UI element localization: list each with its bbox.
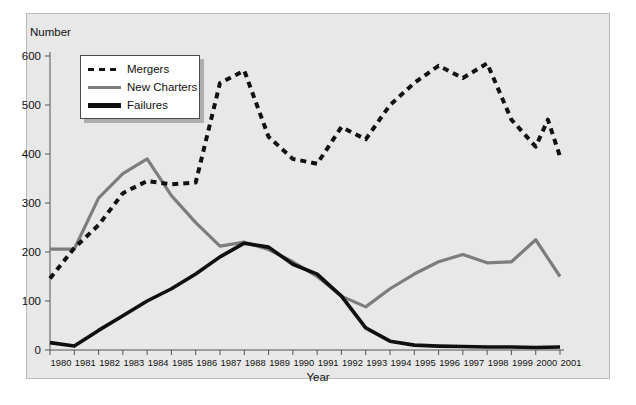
- legend-entry-failures: Failures: [88, 96, 168, 114]
- x-tick-label: 1983: [123, 357, 144, 368]
- x-tick-label: 1989: [269, 357, 290, 368]
- x-tick-label: 1986: [196, 357, 217, 368]
- chart-figure: Number Year 0100200300400500600 19801981…: [0, 0, 636, 405]
- legend-label-mergers: Mergers: [127, 63, 169, 75]
- x-tick-label: 1991: [318, 357, 339, 368]
- y-tick-label: 600: [22, 50, 41, 62]
- x-tick-label: 1984: [148, 357, 169, 368]
- x-tick-label: 1995: [415, 357, 436, 368]
- x-tick-label: 1985: [172, 357, 193, 368]
- x-tick-label: 1992: [342, 357, 363, 368]
- x-axis: 1980198119821983198419851986198719881989…: [50, 350, 581, 368]
- x-tick-label: 2001: [561, 357, 582, 368]
- x-tick-label: 1981: [75, 357, 96, 368]
- legend-swatch-dashed-line-icon: [88, 64, 121, 75]
- series-line-failures: [50, 243, 560, 347]
- legend-swatch-black-line-icon: [88, 100, 121, 111]
- x-tick-label: 1996: [439, 357, 460, 368]
- y-tick-label: 500: [22, 99, 41, 111]
- x-tick-label: 1990: [293, 357, 314, 368]
- y-tick-label: 100: [22, 295, 41, 307]
- x-tick-label: 2000: [536, 357, 557, 368]
- x-tick-label: 1994: [391, 357, 412, 368]
- y-tick-label: 0: [35, 344, 41, 356]
- legend-swatch-gray-line-icon: [88, 82, 121, 93]
- x-tick-label: 1999: [512, 357, 533, 368]
- legend-entry-new-charters: New Charters: [88, 78, 197, 96]
- y-tick-label: 400: [22, 148, 41, 160]
- x-tick-label: 1982: [99, 357, 120, 368]
- x-tick-label: 1993: [366, 357, 387, 368]
- x-tick-label: 1998: [488, 357, 509, 368]
- legend-entry-mergers: Mergers: [88, 60, 169, 78]
- chart-legend: Mergers New Charters Failures: [80, 55, 200, 119]
- y-tick-label: 200: [22, 246, 41, 258]
- series-line-new-charters: [50, 159, 560, 307]
- legend-label-failures: Failures: [127, 99, 168, 111]
- x-tick-label: 1997: [463, 357, 484, 368]
- x-tick-label: 1988: [245, 357, 266, 368]
- legend-label-new-charters: New Charters: [127, 81, 197, 93]
- y-axis: 0100200300400500600: [22, 50, 50, 356]
- x-tick-label: 1987: [221, 357, 242, 368]
- x-tick-label: 1980: [51, 357, 72, 368]
- y-tick-label: 300: [22, 197, 41, 209]
